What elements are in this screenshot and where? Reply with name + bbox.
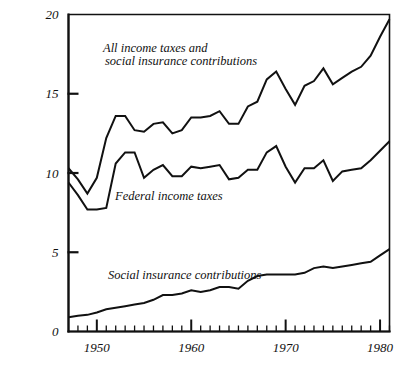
x-axis-tick-labels: 1950196019701980 bbox=[84, 340, 394, 355]
series-annotations: All income taxes andsocial insurance con… bbox=[102, 41, 262, 282]
line-chart: 05101520 1950196019701980 All income tax… bbox=[0, 0, 405, 366]
x-tick-label: 1960 bbox=[178, 340, 205, 355]
all-income-taxes-label: All income taxes andsocial insurance con… bbox=[102, 41, 257, 68]
x-tick-label: 1950 bbox=[84, 340, 111, 355]
federal-income-taxes-label: Federal income taxes bbox=[114, 189, 223, 203]
x-tick-label: 1970 bbox=[273, 340, 300, 355]
series-line-3 bbox=[69, 249, 390, 317]
y-tick-label: 10 bbox=[46, 166, 60, 181]
social-insurance-label: Social insurance contributions bbox=[108, 268, 262, 282]
x-tick-label: 1980 bbox=[367, 340, 394, 355]
chart-page: 05101520 1950196019701980 All income tax… bbox=[0, 0, 405, 366]
y-tick-label: 0 bbox=[52, 324, 59, 339]
y-tick-label: 20 bbox=[46, 7, 60, 22]
y-tick-label: 15 bbox=[46, 86, 60, 101]
x-axis-ticks bbox=[78, 320, 390, 333]
y-tick-label: 5 bbox=[52, 245, 59, 260]
y-axis-tick-labels: 05101520 bbox=[46, 7, 60, 339]
